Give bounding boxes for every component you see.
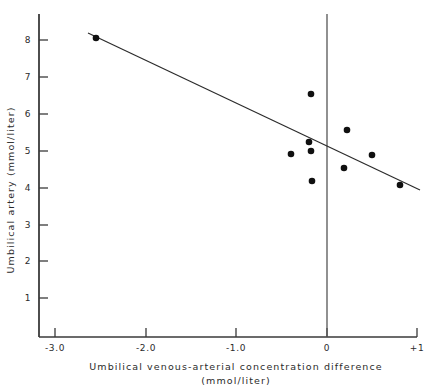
scatter-plot-figure: 8 7 6 5 4 3 2 1 -3.0 -2.0 -1.0 0 +1 [0, 0, 431, 390]
x-axis-units: (mmol/liter) [201, 375, 271, 386]
data-point [309, 178, 316, 185]
y-tick-label: 6 [25, 109, 31, 119]
data-point [344, 127, 351, 134]
y-axis-ticks [39, 40, 48, 298]
data-point [288, 151, 295, 158]
x-tick-label: -2.0 [136, 343, 156, 353]
y-tick-label: 7 [25, 72, 31, 82]
y-tick-label: 1 [25, 293, 31, 303]
data-point [341, 165, 348, 172]
data-point [308, 91, 315, 98]
data-point [397, 182, 404, 189]
data-point [306, 139, 313, 146]
x-axis-ticks [55, 328, 417, 337]
regression-line [88, 33, 420, 190]
y-tick-label: 3 [25, 220, 31, 230]
data-point [308, 148, 315, 155]
x-tick-label: 0 [324, 343, 330, 353]
y-axis-tick-labels: 8 7 6 5 4 3 2 1 [25, 35, 31, 303]
y-tick-label: 5 [25, 146, 31, 156]
y-tick-label: 4 [25, 183, 31, 193]
data-point [93, 35, 100, 42]
x-tick-label: +1 [410, 343, 424, 353]
x-tick-label: -1.0 [226, 343, 246, 353]
data-point [369, 152, 376, 159]
y-tick-label: 2 [25, 256, 31, 266]
x-tick-label: -3.0 [45, 343, 65, 353]
y-axis-title: Umbilical artery (mmol/liter) [5, 107, 16, 274]
x-axis-title: Umbilical venous-arterial concentration … [89, 361, 383, 372]
y-tick-label: 8 [25, 35, 31, 45]
x-axis-tick-labels: -3.0 -2.0 -1.0 0 +1 [45, 343, 424, 353]
plot-canvas: 8 7 6 5 4 3 2 1 -3.0 -2.0 -1.0 0 +1 [0, 0, 431, 390]
